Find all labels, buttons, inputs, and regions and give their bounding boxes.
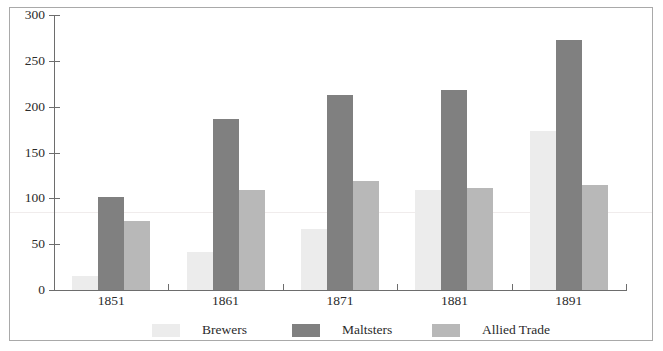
legend-item-brewers: Brewers (152, 322, 247, 338)
bar-allied-trade-1861 (239, 190, 265, 290)
bar-allied-trade-1891 (582, 185, 608, 290)
legend-label-allied-trade: Allied Trade (482, 323, 550, 337)
y-tick-label-0: 0 (3, 283, 45, 297)
legend-item-allied-trade: Allied Trade (432, 322, 550, 338)
y-tick-label-150: 150 (3, 146, 45, 160)
plot-area: 050100150200250300 18511861187118811891 … (0, 0, 663, 351)
bar-brewers-1891 (530, 131, 556, 291)
x-tick-label-1861: 1861 (181, 294, 271, 308)
bar-brewers-1851 (72, 276, 98, 290)
y-tick-label-100: 100 (3, 191, 45, 205)
bar-brewers-1871 (301, 229, 327, 290)
x-tick-label-1871: 1871 (295, 294, 385, 308)
legend-label-maltsters: Maltsters (342, 323, 392, 337)
bar-maltsters-1861 (213, 119, 239, 290)
bar-maltsters-1851 (98, 197, 124, 291)
bars-layer (54, 15, 626, 290)
bar-brewers-1861 (187, 252, 213, 291)
x-tick-5 (626, 284, 627, 291)
x-axis-line (54, 290, 626, 291)
legend-swatch-allied-trade (432, 324, 460, 337)
legend-swatch-brewers (152, 324, 180, 337)
bar-allied-trade-1871 (353, 181, 379, 290)
bar-maltsters-1881 (441, 90, 467, 290)
y-tick-label-300: 300 (3, 8, 45, 22)
y-tick-label-200: 200 (3, 100, 45, 114)
bar-brewers-1881 (415, 190, 441, 290)
bar-allied-trade-1851 (124, 221, 150, 290)
bar-maltsters-1871 (327, 95, 353, 290)
bar-allied-trade-1881 (467, 188, 493, 290)
y-tick-label-250: 250 (3, 54, 45, 68)
x-tick-label-1891: 1891 (524, 294, 614, 308)
x-tick-label-1851: 1851 (66, 294, 156, 308)
legend-label-brewers: Brewers (202, 323, 247, 337)
chart-legend: BrewersMaltstersAllied Trade (54, 322, 626, 342)
y-tick-label-50: 50 (3, 237, 45, 251)
x-tick-label-1881: 1881 (409, 294, 499, 308)
bar-chart-figure: 050100150200250300 18511861187118811891 … (0, 0, 663, 351)
legend-swatch-maltsters (292, 324, 320, 337)
legend-item-maltsters: Maltsters (292, 322, 392, 338)
bar-maltsters-1891 (556, 40, 582, 290)
